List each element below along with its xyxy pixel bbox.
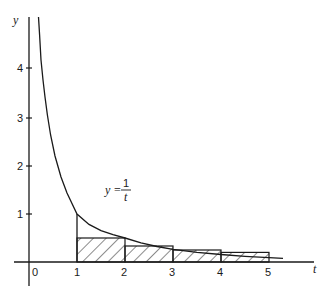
y-tick-label-2: 2	[17, 160, 23, 172]
hatched-rectangles	[77, 214, 269, 262]
equation-denominator: t	[124, 190, 128, 204]
equation-lhs: y =	[104, 183, 121, 197]
curve-equation-label: y = 1 t	[104, 177, 131, 204]
y-tick-label-4: 4	[17, 62, 23, 74]
x-tick-label-2: 2	[121, 266, 127, 278]
y-tick-label-3: 3	[17, 112, 23, 124]
curve-one-over-t	[39, 17, 284, 258]
graph-canvas: y t 0 1 2 3 4 1 2 3 4 5 y = 1 t	[0, 0, 332, 300]
x-tick-label-5: 5	[265, 266, 271, 278]
x-tick-label-4: 4	[217, 266, 223, 278]
y-tick-label-1: 1	[17, 208, 23, 220]
y-axis-label: y	[12, 13, 19, 27]
function-graph: y t 0 1 2 3 4 1 2 3 4 5 y = 1 t	[0, 0, 332, 300]
rectangle-1-2	[77, 238, 125, 262]
equation-numerator: 1	[123, 177, 129, 189]
x-axis-label: t	[313, 262, 317, 276]
x-tick-label-3: 3	[169, 266, 175, 278]
origin-label: 0	[32, 266, 38, 278]
x-tick-label-1: 1	[74, 266, 80, 278]
